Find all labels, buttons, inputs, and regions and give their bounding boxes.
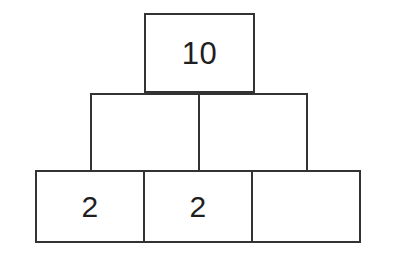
middle-right-cell[interactable] <box>198 93 308 172</box>
middle-left-cell[interactable] <box>90 93 200 172</box>
pyramid-row-top: 10 <box>144 13 255 93</box>
bottom-right-cell[interactable] <box>251 170 361 243</box>
apex-cell-value: 10 <box>182 38 217 69</box>
apex-cell[interactable]: 10 <box>144 13 255 93</box>
bottom-left-cell[interactable]: 2 <box>35 170 145 243</box>
pyramid-row-middle <box>90 93 308 172</box>
bottom-center-cell[interactable]: 2 <box>143 170 253 243</box>
bottom-left-cell-value: 2 <box>81 192 98 222</box>
number-pyramid-figure: 10 2 2 <box>0 0 395 254</box>
pyramid-canvas: 10 2 2 <box>0 0 395 254</box>
pyramid-row-bottom: 2 2 <box>35 170 361 243</box>
bottom-center-cell-value: 2 <box>189 192 206 222</box>
